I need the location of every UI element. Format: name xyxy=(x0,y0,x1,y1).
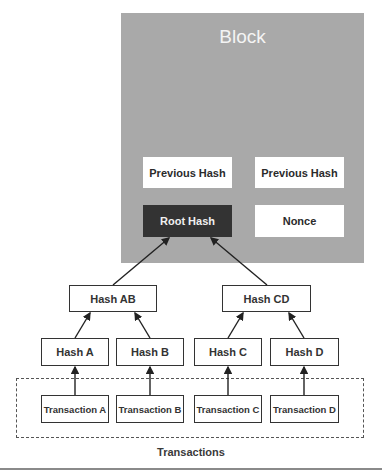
transaction-c-node: Transaction C xyxy=(194,395,262,423)
hash-b-node: Hash B xyxy=(116,338,184,366)
block-title: Block xyxy=(121,26,364,48)
transaction-a-node: Transaction A xyxy=(41,395,109,423)
transaction-d-node: Transaction D xyxy=(270,395,339,423)
previous-hash-field-1: Previous Hash xyxy=(143,157,232,188)
transaction-b-node: Transaction B xyxy=(116,395,184,423)
hash-c-node: Hash C xyxy=(194,338,262,366)
bottom-divider xyxy=(0,468,382,470)
hash-cd-node: Hash CD xyxy=(222,285,311,312)
hash-ab-node: Hash AB xyxy=(69,285,157,312)
transactions-caption: Transactions xyxy=(0,446,382,458)
hash-d-node: Hash D xyxy=(270,338,339,366)
previous-hash-field-2: Previous Hash xyxy=(255,157,344,188)
nonce-field: Nonce xyxy=(255,205,344,237)
root-hash-field: Root Hash xyxy=(143,205,232,237)
hash-a-node: Hash A xyxy=(41,338,109,366)
